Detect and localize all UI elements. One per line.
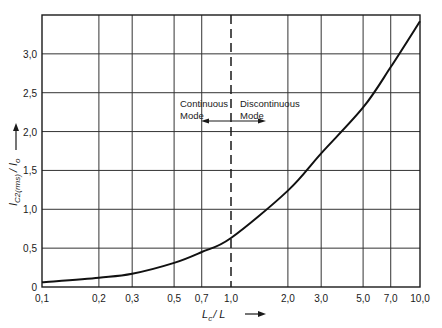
- x-tick-label: 0,2: [92, 293, 106, 304]
- svg-text:Lc/ L: Lc/ L: [202, 308, 225, 323]
- y-tick-labels: 00,51,01,52,02,53,0: [23, 49, 37, 293]
- x-tick-label: 1,0: [224, 293, 238, 304]
- y-tick-label: 3,0: [23, 49, 37, 60]
- continuous-label: Continuous: [180, 98, 228, 109]
- x-axis-arrow-icon: [245, 311, 266, 317]
- x-tick-label: 5,0: [356, 293, 370, 304]
- x-axis-label: Lc/ L: [202, 308, 266, 323]
- x-tick-label: 10,0: [410, 293, 430, 304]
- discontinuous-label: Discontinuous: [240, 98, 300, 109]
- chart: 0,10,20,30,50,71,02,03,05,07,010,0 00,51…: [0, 0, 442, 328]
- x-tick-labels: 0,10,20,30,50,71,02,03,05,07,010,0: [35, 293, 430, 304]
- y-tick-label: 2,5: [23, 88, 37, 99]
- y-tick-label: 0: [31, 282, 37, 293]
- x-tick-label: 0,5: [167, 293, 181, 304]
- y-tick-label: 1,0: [23, 204, 37, 215]
- x-tick-label: 0,3: [125, 293, 139, 304]
- x-tick-label: 0,1: [35, 293, 49, 304]
- x-tick-label: 0,7: [195, 293, 209, 304]
- y-axis-arrow-icon: [13, 123, 19, 150]
- continuous-mode-label: Mode: [180, 110, 204, 121]
- y-tick-label: 0,5: [23, 243, 37, 254]
- x-tick-label: 2,0: [281, 293, 295, 304]
- y-tick-label: 1,5: [23, 165, 37, 176]
- svg-text:IC2(rms)/ Io: IC2(rms)/ Io: [7, 158, 22, 206]
- y-axis-label: IC2(rms)/ Io: [7, 158, 22, 206]
- y-tick-label: 2,0: [23, 127, 37, 138]
- x-tick-label: 3,0: [314, 293, 328, 304]
- x-tick-label: 7,0: [384, 293, 398, 304]
